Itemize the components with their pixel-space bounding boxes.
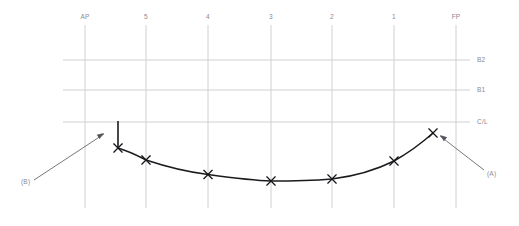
station-label-group: AP54321FP	[80, 13, 460, 20]
callout-a-leader-line	[440, 136, 484, 170]
hull-lines-drawing: B2B1C/L AP54321FP (B)(A)	[0, 0, 519, 226]
callout-b-label: (B)	[21, 178, 30, 186]
station-1-label: 1	[392, 13, 396, 20]
station-3-label: 3	[269, 13, 273, 20]
callout-b: (B)	[21, 131, 105, 186]
station-fp-label: FP	[452, 13, 461, 20]
callout-b-leader-line	[34, 134, 104, 180]
waterline-cl-label: C/L	[477, 118, 488, 125]
offset-point-markers	[114, 129, 437, 185]
callout-a: (A)	[438, 133, 496, 178]
station-4-label: 4	[206, 13, 210, 20]
diagram-canvas: B2B1C/L AP54321FP (B)(A)	[0, 0, 519, 226]
station-ap-label: AP	[80, 13, 89, 20]
marker-bow	[429, 129, 437, 137]
sheer-line-curve	[118, 133, 433, 181]
station-2-label: 2	[330, 13, 334, 20]
waterline-b1-label: B1	[477, 86, 486, 93]
waterline-b2-label: B2	[477, 56, 486, 63]
waterline-grid	[63, 60, 470, 122]
callout-a-label: (A)	[487, 170, 496, 178]
waterline-label-group: B2B1C/L	[477, 56, 488, 125]
station-5-label: 5	[144, 13, 148, 20]
